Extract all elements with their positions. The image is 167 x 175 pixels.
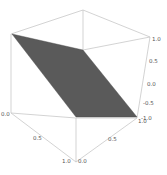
surface-plane <box>12 34 137 117</box>
x-tick-05: 0.5 <box>33 135 42 141</box>
z-tick-0: 0.0 <box>147 81 156 87</box>
y-tick-0: 0.0 <box>78 158 87 164</box>
y-tick-05: 0.5 <box>108 136 117 142</box>
z-tick-m1: -1.0 <box>141 115 152 121</box>
z-tick-1: 1.0 <box>152 36 161 42</box>
z-tick-05: 0.5 <box>149 58 158 64</box>
x-tick-0: 0.0 <box>1 111 10 117</box>
x-tick-1: 1.0 <box>62 158 71 164</box>
z-tick-m05: -0.5 <box>143 100 154 106</box>
surface-plot-3d[interactable]: 0.0 0.5 1.0 0.0 0.5 1.0 1.0 0.5 0.0 -0.5… <box>0 0 167 175</box>
